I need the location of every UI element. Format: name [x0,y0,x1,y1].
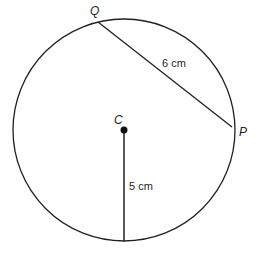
point-label-c: C [114,113,123,127]
chord-qp [98,22,232,127]
chord-length-label: 6 cm [162,57,186,69]
radius-length-label: 5 cm [129,180,153,192]
circle-diagram: Q P C 6 cm 5 cm [0,0,259,254]
center-point-dot [121,127,128,134]
point-label-p: P [239,125,247,139]
point-label-q: Q [90,4,99,18]
